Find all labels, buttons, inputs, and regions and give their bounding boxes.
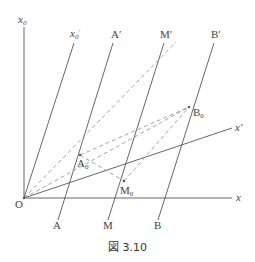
x-axis-label: x bbox=[235, 191, 241, 203]
origin-label: O bbox=[15, 198, 23, 210]
event-m0-point bbox=[123, 180, 125, 182]
x-prime-axis-label: x′ bbox=[234, 121, 243, 133]
worldline-a bbox=[58, 43, 113, 220]
origin-point bbox=[23, 197, 25, 199]
event-b0-label: B0 bbox=[193, 106, 204, 120]
worldline-a-top-label: A′ bbox=[111, 28, 121, 40]
dashed-m0-b0 bbox=[124, 107, 189, 181]
worldline-b bbox=[158, 43, 214, 220]
worldline-b-bottom-label: B bbox=[154, 219, 161, 231]
worldline-a-bottom-label: A bbox=[53, 219, 61, 231]
event-b0-point bbox=[188, 106, 190, 108]
worldline-b-top-label: B′ bbox=[211, 28, 221, 40]
x0-prime-axis-label: x0′ bbox=[69, 27, 80, 41]
x0-prime-axis bbox=[24, 43, 74, 198]
event-a0-point bbox=[79, 154, 81, 156]
x0-axis-label: x0 bbox=[17, 13, 27, 27]
worldline-m-top-label: M′ bbox=[160, 28, 172, 40]
light-ray-upper bbox=[24, 42, 176, 198]
worldline-m-bottom-label: M bbox=[103, 219, 113, 231]
worldline-m bbox=[108, 43, 164, 220]
figure-caption: 図 3.10 bbox=[0, 238, 255, 254]
spacetime-diagram: x0 x0′ x′ x O A′ M′ B′ A M B A0 M0 B0 bbox=[0, 0, 255, 262]
event-m0-label: M0 bbox=[120, 184, 134, 198]
